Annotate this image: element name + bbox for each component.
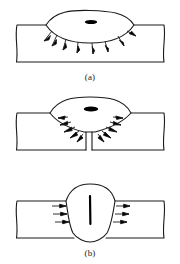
arrow-a-8 xyxy=(127,31,136,36)
arrow-a-3 xyxy=(63,39,67,50)
panel-a: (a) xyxy=(0,0,180,88)
weld-pool-b xyxy=(50,97,131,132)
arrow-a-2 xyxy=(52,35,57,46)
arrow-a-4 xyxy=(77,42,80,53)
arrow-a-6 xyxy=(105,41,109,52)
weld-pool-a xyxy=(46,10,134,43)
arrow-c-l3 xyxy=(55,220,69,224)
arrow-a-1 xyxy=(44,31,52,41)
arrow-c-r2 xyxy=(115,212,129,216)
arrow-b-r3 xyxy=(106,127,117,132)
arrow-b-l4 xyxy=(70,131,79,138)
weld-channel-b xyxy=(86,132,92,150)
figure-root: (a) xyxy=(0,0,180,264)
arrow-c-l1 xyxy=(52,204,66,208)
arrow-c-r3 xyxy=(113,220,127,224)
arrow-a-7 xyxy=(118,36,124,46)
panel-c-illustration xyxy=(0,176,180,264)
arrow-a-5 xyxy=(92,43,95,54)
inner-mark-a xyxy=(85,20,97,24)
arrow-c-l2 xyxy=(53,212,67,216)
panel-b: (b) xyxy=(0,88,180,176)
arrow-c-r1 xyxy=(116,204,130,208)
panel-a-caption: (a) xyxy=(0,72,180,82)
inner-mark-b xyxy=(84,106,98,111)
panel-b-illustration xyxy=(0,88,180,176)
panel-c: (c) xyxy=(0,176,180,264)
arrow-b-r4 xyxy=(102,131,111,138)
